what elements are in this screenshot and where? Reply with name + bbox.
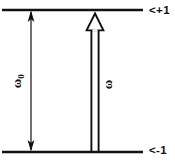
omega-arrowhead bbox=[87, 14, 104, 31]
omega-zero-symbol: ω bbox=[9, 79, 24, 89]
omega-label: ω bbox=[101, 74, 114, 96]
omega-symbol: ω bbox=[100, 80, 115, 90]
upper-level-label: <+1 bbox=[149, 5, 170, 17]
omega-zero-arrow bbox=[28, 11, 35, 152]
energy-level-diagram: <+1 <-1 ω0 ω bbox=[0, 0, 175, 163]
lower-level-label: <-1 bbox=[149, 145, 167, 157]
omega-zero-label: ω0 bbox=[10, 67, 27, 95]
omega-shaft-outline bbox=[91, 30, 98, 153]
omega-zero-subscript: 0 bbox=[16, 74, 26, 79]
